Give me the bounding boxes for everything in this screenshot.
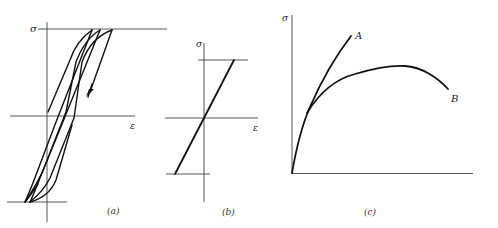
panel-b-caption: (b) (222, 207, 235, 217)
panel-c-curve-b-label: B (450, 93, 458, 104)
panel-a: σ ε (a) (7, 22, 167, 222)
panel-b-epsilon-label: ε (253, 123, 258, 133)
panel-c-sigma-label: σ (282, 13, 289, 23)
panel-c-curve-b (307, 66, 448, 113)
panel-b-elastic-line (175, 60, 234, 174)
panel-b: σ ε (b) (165, 39, 258, 217)
panel-c-curve-a-label: A (354, 30, 362, 41)
panel-c: σ A B (c) (282, 13, 473, 217)
panel-c-curve-a (292, 36, 351, 173)
panel-a-epsilon-label: ε (130, 121, 135, 131)
figure-canvas: σ ε (a) σ ε (b) σ A B (c) (0, 0, 498, 228)
panel-a-caption: (a) (107, 206, 120, 216)
panel-a-sigma-label: σ (30, 23, 38, 34)
panel-b-sigma-label: σ (196, 39, 203, 49)
panel-c-caption: (c) (364, 207, 377, 217)
